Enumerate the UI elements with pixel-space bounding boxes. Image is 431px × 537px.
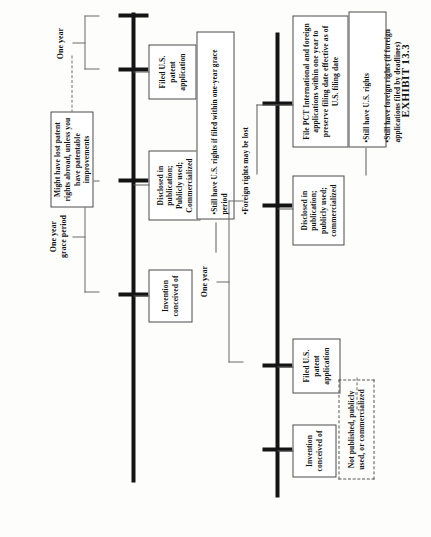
lower-leader-invention bbox=[277, 450, 293, 451]
lower-event-disclosure: Disclosed in publication; publicly used;… bbox=[292, 175, 344, 245]
upper-leader-invention bbox=[133, 295, 149, 296]
upper-tick-filing bbox=[118, 68, 148, 72]
upper-tick-end bbox=[118, 14, 148, 18]
upper-span-year-stem bbox=[72, 42, 85, 43]
upper-tick-disclosure bbox=[118, 179, 148, 183]
upper-event-invention: Invention conceived of bbox=[148, 269, 192, 322]
upper-note-abroad-connector bbox=[71, 55, 72, 117]
lower-event-filing: Filed U.S. patent application bbox=[292, 338, 340, 393]
upper-event-filing: Filed U.S. patent application bbox=[148, 44, 196, 99]
upper-note-usrights-bullet-1: •Still have U.S. rights if filed within … bbox=[209, 36, 228, 214]
upper-note-usrights: •Still have U.S. rights if filed within … bbox=[196, 31, 234, 219]
exhibit-diagram: Invention conceived of Disclosed in publ… bbox=[0, 0, 431, 537]
exhibit-caption: EXHIBIT 13.3 bbox=[398, 43, 410, 117]
lower-span-year-stem bbox=[216, 281, 229, 282]
lower-leader-pct-vertical bbox=[256, 104, 293, 105]
upper-span-year-label: One year bbox=[55, 11, 65, 75]
lower-note-rights-connector bbox=[365, 147, 366, 175]
upper-leader-disclosure bbox=[133, 184, 149, 185]
lower-note-rights-ok: •Still have U.S. rights •Still have fore… bbox=[348, 11, 386, 147]
upper-note-usrights-connector bbox=[215, 222, 216, 252]
upper-event-disclosure: Disclosed in publication; Publicly used;… bbox=[148, 150, 200, 220]
lower-event-pct: File PCT International and foreign appli… bbox=[292, 15, 348, 147]
upper-span-year-bracket bbox=[84, 15, 99, 69]
upper-timeline-axis bbox=[131, 12, 135, 482]
lower-leader-disclosure bbox=[277, 208, 293, 209]
upper-span-grace-stem bbox=[72, 236, 85, 237]
upper-leader-filing bbox=[133, 71, 149, 72]
lower-tick-disclosure bbox=[262, 204, 292, 208]
lower-leader-filing bbox=[277, 366, 293, 367]
lower-event-invention: Invention conceived of bbox=[292, 424, 336, 477]
lower-note-secrecy: Not published, publicly used, or commerc… bbox=[338, 379, 374, 479]
upper-note-abroad: Might have lost patent rights abroad, un… bbox=[50, 111, 93, 207]
upper-note-usrights-bullet-2: •Foreign rights may be lost bbox=[240, 36, 249, 214]
lower-leader-pct-horizontal bbox=[256, 104, 257, 174]
lower-span-year-label: One year bbox=[199, 249, 209, 313]
lower-note-rights-bullet-1: •Still have U.S. rights bbox=[361, 16, 370, 142]
upper-span-grace-label: One year grace period bbox=[48, 197, 68, 275]
lower-span-year-bracket bbox=[228, 200, 243, 362]
